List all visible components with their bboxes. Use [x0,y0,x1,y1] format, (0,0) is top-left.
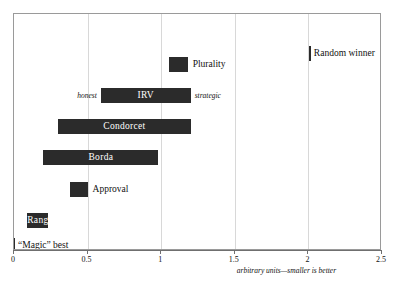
x-tick-label-2-5: 2.5 [366,255,395,264]
bar-label-magicbest: “Magic” best [18,238,68,250]
marker-magicbest [13,238,15,250]
x-axis-line [13,250,382,251]
x-tick-2-5 [381,250,382,254]
marker-randomwinner [309,46,311,61]
chart-container: Random winnerPluralityIRVhoneststrategic… [0,0,395,288]
plot-area: Random winnerPluralityIRVhoneststrategic… [13,13,381,250]
x-axis-caption: arbitrary units—smaller is better [237,266,336,275]
note-irv-right: strategic [195,88,221,103]
gridline-1-5 [235,14,236,249]
x-tick-label-1-5: 1.5 [219,255,249,264]
x-tick-1-5 [234,250,235,254]
x-tick-1 [160,250,161,254]
note-irv-left: honest [69,88,97,103]
bar-label-borda: Borda [43,150,158,165]
bar-approval[interactable] [70,182,88,197]
x-tick-label-0: 0 [0,255,28,264]
bar-label-approval: Approval [93,182,129,197]
x-tick-0 [13,250,14,254]
x-tick-0-5 [87,250,88,254]
bar-label-irv: IRV [101,88,191,103]
x-tick-label-0-5: 0.5 [72,255,102,264]
bar-label-randomwinner: Random winner [314,46,375,61]
bar-label-condorcet: Condorcet [58,119,190,134]
bar-plurality[interactable] [169,57,188,72]
x-tick-label-1: 1 [145,255,175,264]
x-tick-label-2: 2 [292,255,322,264]
bar-label-plurality: Plurality [193,57,226,72]
x-tick-2 [307,250,308,254]
bar-label-range: Range [27,213,48,228]
